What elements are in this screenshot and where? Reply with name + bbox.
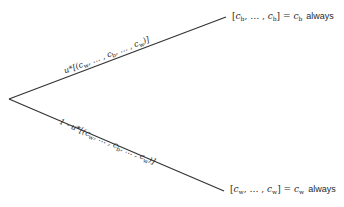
- upper-out-word: always: [306, 11, 334, 21]
- lower-out-word: always: [308, 184, 336, 194]
- upper-out-close: ] =: [277, 11, 294, 21]
- lower-out-result-sub: w: [299, 188, 304, 195]
- upper-branch-line: [9, 17, 226, 99]
- tree-lines: [0, 0, 344, 207]
- lower-out-close: ] =: [277, 184, 294, 194]
- upper-out-mid: , … ,: [244, 11, 267, 21]
- lower-outcome-label: [cw, … , cw] = cwalways: [230, 185, 336, 195]
- upper-out-result-sub: b: [298, 15, 302, 22]
- lower-out-mid: , … ,: [244, 184, 267, 194]
- upper-outcome-label: [cb, … , cb] = cbalways: [232, 12, 334, 22]
